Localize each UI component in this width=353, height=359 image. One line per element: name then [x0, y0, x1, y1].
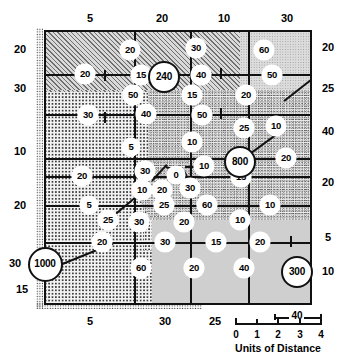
- scale-tick-3: [299, 319, 301, 324]
- map-figure: 2030602015405050152030405025105102020300…: [0, 0, 353, 359]
- scale-end-right: [320, 318, 322, 325]
- axis-right-label-4: 5: [325, 231, 331, 243]
- axis-top-label-2: 10: [218, 12, 230, 24]
- axis-right-label-3: 20: [322, 176, 334, 188]
- axis-right-label-0: 20: [322, 41, 334, 53]
- scale-number-3: 3: [297, 329, 303, 340]
- scale-tick-2: [277, 319, 279, 324]
- edge-label-18[interactable]: 20: [72, 166, 92, 186]
- axis-top-label-1: 20: [156, 12, 168, 24]
- edge-label-33[interactable]: 10: [230, 210, 250, 230]
- edge-label-7[interactable]: 50: [123, 85, 143, 105]
- edge-label-5[interactable]: 40: [191, 65, 211, 85]
- edge-label-27[interactable]: 25: [154, 195, 174, 215]
- edge-label-22[interactable]: 10: [132, 180, 152, 200]
- axis-bottom-label-0: 5: [87, 315, 93, 327]
- axis-right-label-1: 25: [322, 82, 334, 94]
- city-marker-800[interactable]: 800: [224, 146, 256, 178]
- scale-bar: 40 0 1 2 3 4 Units of Distance: [232, 314, 344, 354]
- scale-tick-1: [256, 319, 258, 324]
- edge-label-24[interactable]: 30: [180, 178, 200, 198]
- edge-label-11[interactable]: 40: [136, 104, 156, 124]
- edge-label-16[interactable]: 10: [182, 132, 202, 152]
- axis-bottom-label-2: 25: [209, 315, 221, 327]
- axis-left-label-4: 30: [9, 257, 21, 269]
- edge-label-37[interactable]: 20: [250, 232, 270, 252]
- city-marker-1000[interactable]: 1000: [28, 247, 63, 282]
- axis-right-label-5: 10: [322, 265, 334, 277]
- scale-upper-rule-right: [304, 317, 321, 319]
- scale-upper-end-left: [274, 314, 276, 320]
- edge-label-36[interactable]: 15: [206, 232, 226, 252]
- edge-label-17[interactable]: 20: [276, 148, 296, 168]
- edge-label-34[interactable]: 20: [92, 232, 112, 252]
- scale-caption: Units of Distance: [235, 342, 321, 354]
- edge-label-28[interactable]: 60: [197, 195, 217, 215]
- map-canvas[interactable]: 2030602015405050152030405025105102020300…: [44, 30, 312, 305]
- scale-number-4: 4: [318, 329, 324, 340]
- edge-label-40[interactable]: 40: [234, 258, 254, 278]
- edge-label-35[interactable]: 30: [155, 232, 175, 252]
- scale-number-2: 2: [275, 329, 281, 340]
- scale-number-1: 1: [254, 329, 260, 340]
- edge-label-9[interactable]: 20: [236, 85, 256, 105]
- edge-label-13[interactable]: 25: [234, 118, 254, 138]
- edge-label-26[interactable]: 5: [80, 196, 98, 214]
- axis-left-label-3: 20: [14, 199, 26, 211]
- edge-label-21[interactable]: 10: [194, 156, 214, 176]
- edge-label-39[interactable]: 20: [184, 258, 204, 278]
- edge-label-38[interactable]: 60: [131, 258, 151, 278]
- edge-label-14[interactable]: 10: [266, 116, 286, 136]
- edge-label-12[interactable]: 50: [192, 105, 212, 125]
- edge-label-32[interactable]: 20: [174, 212, 194, 232]
- edge-label-19[interactable]: 30: [135, 161, 155, 181]
- city-marker-300[interactable]: 300: [281, 256, 313, 288]
- edge-label-3[interactable]: 20: [75, 64, 95, 84]
- scale-end-left: [235, 318, 237, 325]
- edge-label-29[interactable]: 10: [260, 195, 280, 215]
- edge-label-10[interactable]: 30: [78, 105, 98, 125]
- axis-left-label-5: 15: [16, 283, 28, 295]
- edge-label-31[interactable]: 30: [129, 212, 149, 232]
- axis-top-label-0: 5: [87, 12, 93, 24]
- axis-right-label-2: 40: [322, 125, 334, 137]
- edge-label-30[interactable]: 25: [98, 210, 118, 230]
- city-marker-240[interactable]: 240: [148, 61, 180, 93]
- edge-label-0[interactable]: 20: [120, 40, 140, 60]
- edge-label-6[interactable]: 50: [262, 65, 282, 85]
- axis-top-label-3: 30: [281, 12, 293, 24]
- edge-label-1[interactable]: 30: [186, 38, 206, 58]
- axis-left-label-0: 20: [14, 43, 26, 55]
- edge-label-2[interactable]: 60: [254, 40, 274, 60]
- scale-segment-label: 40: [291, 310, 302, 321]
- axis-left-label-1: 30: [14, 82, 26, 94]
- axis-left-label-2: 10: [14, 145, 26, 157]
- axis-bottom-label-1: 30: [159, 315, 171, 327]
- scale-number-0: 0: [233, 329, 239, 340]
- edge-label-8[interactable]: 15: [182, 85, 202, 105]
- edge-label-15[interactable]: 5: [122, 138, 140, 156]
